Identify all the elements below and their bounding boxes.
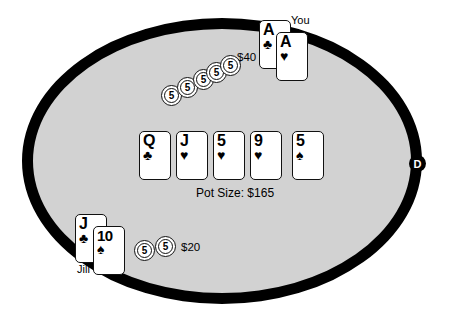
community-card-1: Q ♣	[139, 131, 171, 180]
pot-size-label: Pot Size: $165	[196, 186, 274, 200]
player-card-you-2: A ♥	[276, 32, 308, 81]
player-label-you: You	[291, 14, 310, 26]
spades-icon: ♠	[97, 243, 104, 256]
spades-icon: ♠	[296, 149, 303, 162]
chip-value: 5	[163, 242, 169, 252]
dealer-button[interactable]: D	[409, 155, 426, 172]
chip-value: 5	[214, 68, 220, 78]
chip-value: 5	[169, 91, 175, 101]
clubs-icon: ♣	[79, 232, 88, 245]
chip-value: 5	[228, 61, 234, 71]
community-card-2: J ♥	[176, 131, 208, 180]
clubs-icon: ♣	[143, 149, 152, 162]
chip-value: 5	[201, 75, 207, 85]
hearts-icon: ♥	[254, 149, 262, 162]
clubs-icon: ♣	[263, 38, 272, 51]
community-card-4: 9 ♥	[250, 131, 282, 180]
chip: 5	[220, 55, 241, 76]
chip-value: 5	[185, 83, 191, 93]
poker-table-scene: D You A ♣ A ♥ $40 5 5 5 5 5 Q ♣ J ♥ 5 ♥ …	[0, 0, 467, 331]
hearts-icon: ♥	[217, 149, 225, 162]
chip: 5	[155, 236, 176, 257]
hearts-icon: ♥	[280, 50, 288, 63]
player-card-jill-2: 10 ♠	[93, 226, 125, 275]
hearts-icon: ♥	[180, 149, 188, 162]
community-card-3: 5 ♥	[213, 131, 245, 180]
chip: 5	[134, 240, 155, 261]
player-label-jill: Jill	[77, 263, 90, 275]
bet-amount-jill: $20	[181, 241, 200, 253]
community-card-5: 5 ♠	[292, 131, 324, 180]
chip-value: 5	[142, 246, 148, 256]
